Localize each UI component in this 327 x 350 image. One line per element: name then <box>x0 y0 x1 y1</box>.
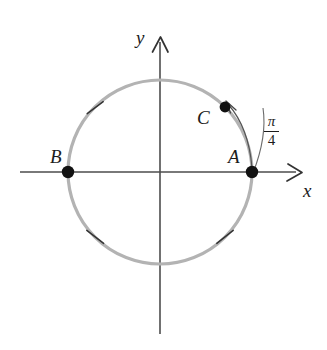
point-A-marker <box>246 166 258 178</box>
point-B-label: B <box>50 147 62 166</box>
point-C-marker <box>220 102 231 113</box>
unit-circle-figure: y x A B C π 4 <box>0 0 327 350</box>
y-axis-label: y <box>136 28 144 47</box>
figure-canvas <box>0 0 327 350</box>
angle-numerator: π <box>266 114 278 130</box>
tick-225-icon <box>87 230 104 243</box>
angle-annotation: π 4 <box>264 114 279 149</box>
angle-denominator: 4 <box>266 133 278 149</box>
point-B-marker <box>62 166 74 178</box>
x-axis-label: x <box>303 181 311 200</box>
point-C-label: C <box>197 108 210 127</box>
radial-line-from-A <box>253 108 264 173</box>
tick-315-icon <box>217 230 233 243</box>
tick-135-icon <box>87 102 103 114</box>
point-A-label: A <box>228 147 240 166</box>
